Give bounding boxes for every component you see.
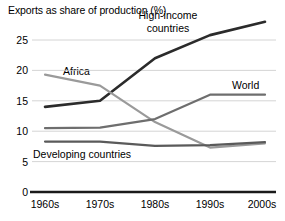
chart-plot-area <box>0 0 285 221</box>
series-line-africa <box>45 75 265 148</box>
line-chart: Exports as share of production (%) 25 20… <box>0 0 285 221</box>
series-lines <box>45 22 265 148</box>
